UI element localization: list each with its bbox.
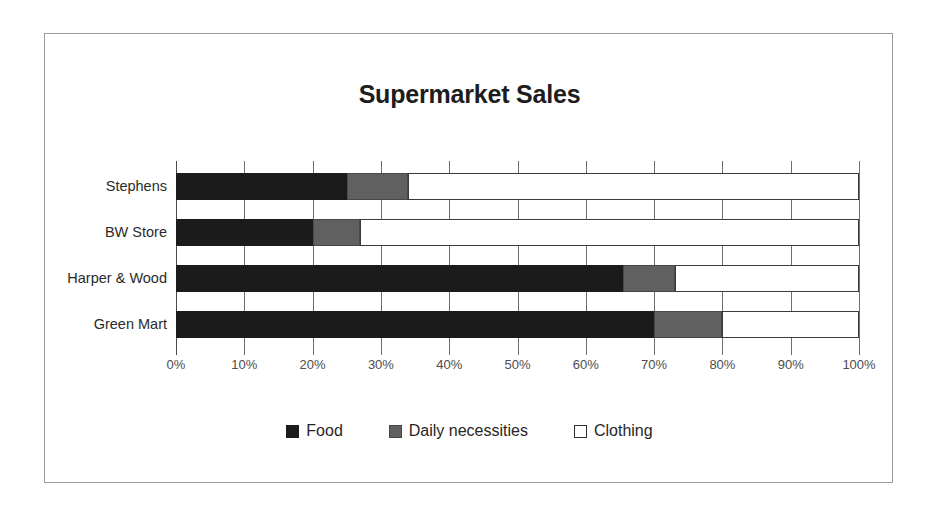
bar-segment-daily-necessities — [654, 311, 722, 338]
category-label: BW Store — [105, 219, 167, 246]
category-label: Stephens — [106, 173, 167, 200]
chart-title: Supermarket Sales — [45, 80, 894, 109]
legend-label: Clothing — [594, 422, 653, 440]
bar-segment-clothing — [360, 219, 859, 246]
bar-segment-food — [176, 173, 347, 200]
bar-segment-daily-necessities — [313, 219, 361, 246]
legend-item-daily-necessities[interactable]: Daily necessities — [389, 422, 528, 440]
bar-segment-clothing — [408, 173, 859, 200]
bar-segment-food — [176, 219, 313, 246]
x-axis-tick-label: 70% — [641, 357, 667, 372]
legend-item-food[interactable]: Food — [286, 422, 342, 440]
chart-legend: Food Daily necessities Clothing — [45, 422, 894, 440]
x-axis-tick-label: 30% — [368, 357, 394, 372]
bar-row: Green Mart — [176, 311, 859, 338]
x-axis-tick-label: 90% — [778, 357, 804, 372]
x-axis-tick-label: 10% — [231, 357, 257, 372]
x-axis-tick-label: 0% — [167, 357, 186, 372]
chart-figure: Supermarket Sales Stephens BW Store H — [44, 33, 893, 483]
bar-segment-clothing — [722, 311, 859, 338]
x-axis-tick-label: 50% — [504, 357, 530, 372]
legend-swatch-food-icon — [286, 425, 299, 438]
x-axis-tick-label: 80% — [709, 357, 735, 372]
legend-swatch-clothing-icon — [574, 425, 587, 438]
gridline-100 — [859, 161, 860, 355]
x-axis-tick-label: 20% — [300, 357, 326, 372]
bar-row: BW Store — [176, 219, 859, 246]
x-axis-tick-label: 60% — [573, 357, 599, 372]
legend-label: Daily necessities — [409, 422, 528, 440]
x-axis-tick-label: 40% — [436, 357, 462, 372]
category-label: Harper & Wood — [67, 265, 167, 292]
legend-label: Food — [306, 422, 342, 440]
bar-row: Harper & Wood — [176, 265, 859, 292]
category-label: Green Mart — [94, 311, 167, 338]
plot-area: Stephens BW Store Harper & Wood Green Ma… — [176, 167, 859, 349]
x-axis-tick-label: 100% — [842, 357, 875, 372]
bar-segment-clothing — [675, 265, 859, 292]
legend-item-clothing[interactable]: Clothing — [574, 422, 653, 440]
bar-row: Stephens — [176, 173, 859, 200]
bar-segment-daily-necessities — [347, 173, 408, 200]
bar-segment-daily-necessities — [623, 265, 674, 292]
legend-swatch-daily-necessities-icon — [389, 425, 402, 438]
bar-segment-food — [176, 311, 654, 338]
bar-segment-food — [176, 265, 623, 292]
